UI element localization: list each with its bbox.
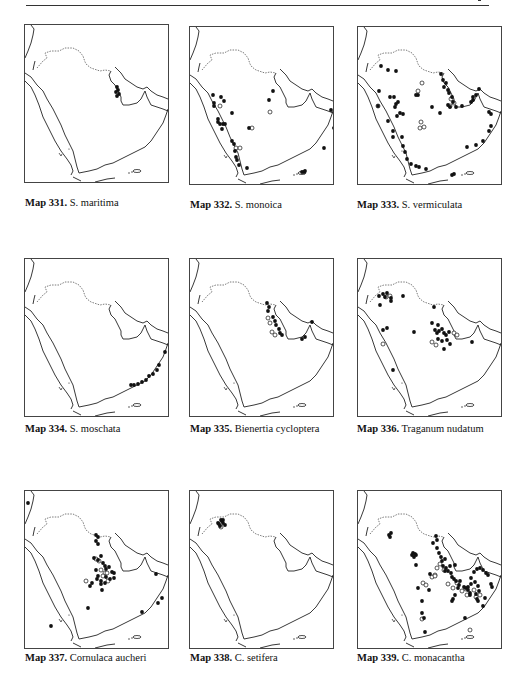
open-record-marker: [105, 571, 109, 575]
farasan-islands: [59, 619, 62, 622]
filled-record-marker: [427, 588, 431, 592]
filled-record-marker: [219, 95, 223, 99]
open-record-marker: [468, 628, 472, 632]
horn-of-africa-coast: [73, 643, 115, 648]
sinai-coast: [358, 491, 367, 524]
filled-record-marker: [274, 323, 278, 327]
filled-record-marker: [447, 330, 451, 334]
filled-record-marker: [460, 104, 464, 108]
filled-record-marker: [376, 104, 380, 108]
open-record-marker: [218, 104, 222, 108]
filled-record-marker: [489, 124, 493, 128]
filled-record-marker: [140, 380, 144, 384]
open-record-marker: [433, 574, 437, 578]
open-record-marker: [455, 333, 459, 337]
african-coast: [25, 547, 73, 641]
open-record-marker: [99, 568, 103, 572]
filled-record-marker: [233, 149, 237, 153]
oman-coast: [145, 325, 168, 345]
filled-record-marker: [99, 582, 103, 586]
filled-record-marker: [144, 378, 148, 382]
map-caption: Map 332. S. monoica: [190, 199, 282, 210]
open-record-marker: [419, 120, 423, 124]
islet: [293, 174, 294, 175]
filled-record-marker: [140, 610, 144, 614]
filled-record-marker: [434, 534, 438, 538]
filled-record-marker: [92, 556, 96, 560]
filled-record-marker: [381, 328, 385, 332]
filled-record-marker: [389, 531, 393, 535]
arabian-peninsula-map: [358, 491, 501, 648]
filled-record-marker: [230, 111, 234, 115]
open-record-marker: [478, 593, 482, 597]
arabian-peninsula-map: [25, 25, 168, 182]
filled-record-marker: [424, 167, 428, 171]
filled-record-marker: [436, 323, 440, 327]
filled-record-marker: [451, 100, 455, 104]
filled-record-marker: [103, 581, 107, 585]
map-frame: [357, 490, 502, 649]
filled-record-marker: [410, 553, 414, 557]
open-record-marker: [418, 126, 422, 130]
farasan-islands: [59, 387, 62, 390]
south-coast: [244, 575, 333, 639]
filled-record-marker: [456, 586, 460, 590]
filled-record-marker: [477, 87, 481, 91]
sinai-coast: [358, 259, 367, 292]
african-coast: [190, 547, 238, 641]
northern-border-line: [370, 50, 444, 73]
iran-coast: [115, 67, 168, 99]
filled-record-marker: [416, 586, 420, 590]
aqaba-coast: [33, 295, 35, 304]
horn-of-africa-coast: [406, 643, 448, 648]
filled-record-marker: [266, 309, 270, 313]
south-coast: [412, 111, 501, 175]
filled-record-marker: [475, 597, 479, 601]
northern-border-line: [37, 48, 111, 71]
map-number: Map 332.: [190, 199, 232, 210]
species-name: S. maritima: [70, 197, 119, 208]
socotra-island: [133, 404, 141, 407]
red-sea-arabian-coast: [358, 539, 412, 639]
filled-record-marker: [115, 94, 119, 98]
islet: [464, 173, 465, 174]
filled-record-marker: [435, 546, 439, 550]
map-frame: [24, 490, 169, 649]
islet: [293, 638, 294, 639]
horn-of-africa-coast: [238, 411, 280, 416]
filled-record-marker: [235, 158, 239, 162]
species-name: S. vermiculata: [402, 199, 463, 210]
filled-record-marker: [470, 340, 474, 344]
filled-record-marker: [394, 69, 398, 73]
arabian-peninsula-map: [358, 259, 501, 416]
open-record-marker: [435, 566, 439, 570]
filled-record-marker: [222, 99, 226, 103]
filled-record-marker: [395, 114, 399, 118]
farasan-islands: [59, 153, 62, 156]
filled-record-marker: [300, 337, 304, 341]
filled-record-marker: [388, 95, 392, 99]
islet: [296, 637, 297, 638]
filled-record-marker: [445, 338, 449, 342]
filled-record-marker: [378, 303, 382, 307]
african-coast: [358, 547, 406, 641]
open-record-marker: [238, 146, 242, 150]
filled-record-marker: [449, 571, 453, 575]
map-caption: Map 331. S. maritima: [25, 197, 119, 208]
filled-records: [377, 291, 474, 372]
filled-record-marker: [104, 575, 108, 579]
sinai-coast: [190, 27, 199, 60]
filled-record-marker: [218, 524, 222, 528]
horn-of-africa-coast: [406, 179, 448, 184]
filled-record-marker: [220, 127, 224, 131]
northern-border-line: [37, 514, 111, 537]
filled-record-marker: [155, 368, 159, 372]
filled-record-marker: [385, 291, 389, 295]
filled-record-marker: [447, 91, 451, 95]
arabian-peninsula-map: [190, 491, 333, 648]
red-sea-arabian-coast: [190, 539, 244, 639]
iran-coast: [115, 533, 168, 565]
filled-record-marker: [483, 596, 487, 600]
filled-record-marker: [435, 538, 439, 542]
open-record-marker: [268, 110, 272, 114]
